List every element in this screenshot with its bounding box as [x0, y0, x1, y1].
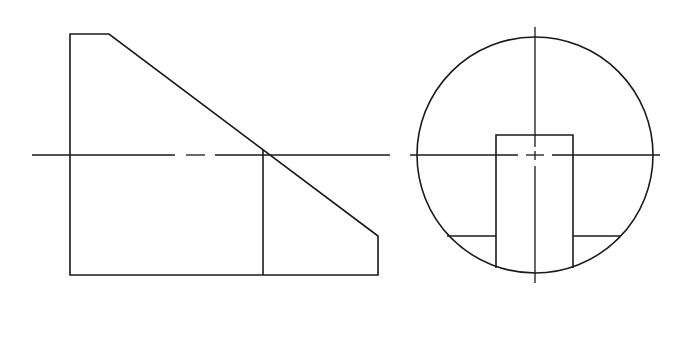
side-view [410, 27, 660, 283]
front-view [32, 34, 390, 275]
drawing-svg [0, 0, 683, 345]
drawing-canvas: Orthographic projection: front view and … [0, 0, 683, 345]
